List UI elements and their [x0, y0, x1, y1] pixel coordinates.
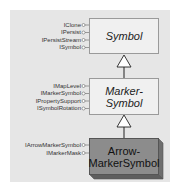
interface-ipersist: IPersist	[61, 29, 81, 36]
markersymbol-interface-lollipops	[82, 85, 89, 111]
interface-isymbol: ISymbol	[59, 44, 81, 51]
arrowmarkersymbol-interface-lollipops	[82, 144, 89, 155]
interface-iarrowmarkersymbol: IArrowMarkerSymbol	[25, 142, 81, 149]
class-arrowmarkersymbol[interactable]: Arrow- MarkerSymbol	[89, 138, 159, 175]
inheritance-arrow-arrowmarkersymbol-to-markersymbol	[117, 115, 131, 138]
class-markersymbol[interactable]: Marker- Symbol	[89, 78, 159, 115]
interface-iclone: IClone	[64, 22, 81, 29]
interface-isymbolrotation: ISymbolRotation	[37, 105, 81, 112]
interface-ipropertysupport: IPropertySupport	[36, 98, 81, 105]
class-symbol-name: Symbol	[106, 30, 143, 42]
class-arrowmarkersymbol-name-line2: MarkerSymbol	[89, 157, 160, 169]
interface-imarkersymbol: IMarkerSymbol	[41, 90, 81, 97]
class-symbol[interactable]: Symbol	[89, 18, 159, 54]
symbol-interface-lollipops	[82, 24, 89, 50]
class-arrowmarkersymbol-name-line1: Arrow-	[108, 145, 140, 157]
interface-imaplevel: IMapLevel	[53, 83, 81, 90]
inheritance-arrow-markersymbol-to-symbol	[117, 55, 131, 78]
interface-imarkermask: IMarkerMask	[46, 150, 81, 157]
interface-ipersiststream: IPersistStream	[42, 37, 81, 44]
class-markersymbol-name-line2: Symbol	[106, 97, 143, 109]
class-markersymbol-name-line1: Marker-	[105, 85, 143, 97]
